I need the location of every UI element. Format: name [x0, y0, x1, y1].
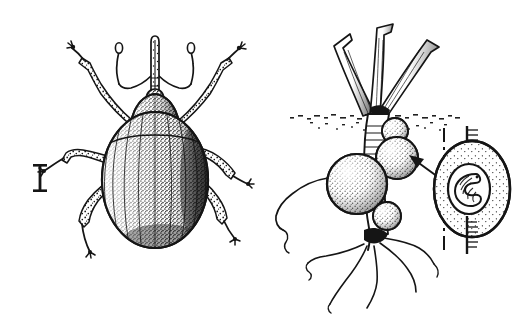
weevil-drawing — [38, 36, 254, 258]
leaf-blades — [334, 24, 439, 118]
leg-front-right — [178, 42, 246, 127]
weevil-elytra — [100, 110, 212, 256]
gall-panel — [264, 0, 527, 317]
galled-root-drawing — [276, 24, 510, 313]
weevil-panel — [0, 0, 264, 317]
lateral-roots — [306, 238, 438, 313]
weevil-rostrum — [151, 36, 159, 95]
leg-front-left — [67, 41, 133, 127]
gall-lower-small — [373, 202, 401, 230]
gall-cross-section-inset — [434, 126, 510, 255]
scale-bar — [33, 164, 47, 192]
illustration-figure — [0, 0, 527, 317]
